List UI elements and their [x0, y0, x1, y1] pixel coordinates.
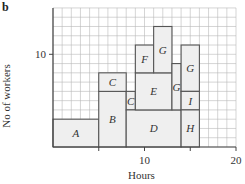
y-axis-label: No of workers	[0, 64, 12, 128]
block-g: G	[154, 26, 172, 72]
block-g: G	[172, 64, 181, 110]
block-c: C	[126, 91, 135, 110]
block-label: F	[140, 53, 148, 65]
y-tick-label: 10	[35, 48, 47, 60]
x-tick-label: 10	[139, 154, 151, 166]
block-label: B	[109, 113, 116, 125]
block-label: H	[185, 122, 195, 134]
x-tick-label: 20	[231, 154, 243, 166]
block-label: G	[173, 81, 181, 93]
block-label: D	[149, 122, 158, 134]
block-c: C	[99, 73, 126, 92]
block-label: G	[159, 44, 167, 56]
block-label: E	[149, 85, 157, 97]
resource-histogram: ABCCDEFGGGIH 102010	[0, 0, 245, 184]
block-a: A	[53, 119, 99, 147]
block-label: A	[72, 127, 80, 139]
block-d: D	[126, 110, 181, 147]
block-g: G	[181, 45, 199, 91]
block-label: G	[186, 62, 194, 74]
block-e: E	[135, 73, 172, 110]
block-h: H	[181, 110, 199, 147]
x-axis-label: Hours	[128, 169, 155, 181]
block-label: C	[127, 95, 135, 107]
block-i: I	[181, 91, 199, 110]
block-label: C	[109, 76, 117, 88]
block-f: F	[135, 45, 153, 73]
block-b: B	[99, 91, 126, 147]
